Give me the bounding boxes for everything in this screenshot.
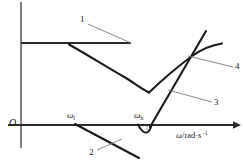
x-axis-label-unit: /rad·s — [182, 130, 201, 140]
curve-label-3: 3 — [214, 98, 219, 107]
curve-label-1: 1 — [80, 15, 85, 24]
curve-2 — [75, 124, 139, 158]
curve-3 — [150, 31, 206, 127]
leader-line-2 — [97, 139, 122, 150]
x-axis-label-exponent: −1 — [201, 130, 207, 136]
x-tick-label-omega-l: ωl — [67, 111, 75, 120]
omega-h-subscript: h — [140, 114, 143, 121]
curve-label-2: 2 — [89, 148, 94, 157]
leader-line-4 — [188, 56, 233, 67]
leader-line-1 — [88, 24, 131, 43]
x-tick-label-omega-h: ωh — [134, 111, 144, 120]
leader-line-3 — [168, 90, 212, 102]
origin-label: O — [9, 118, 16, 128]
figure-canvas: O ωl ωh ω/rad·s−1 1 2 3 4 — [0, 0, 243, 162]
curve-1-descent — [69, 45, 149, 93]
x-axis-label: ω/rad·s−1 — [176, 131, 208, 140]
x-axis-arrow-icon — [233, 121, 241, 129]
omega-l-subscript: l — [73, 114, 75, 121]
curve-label-4: 4 — [235, 62, 240, 71]
